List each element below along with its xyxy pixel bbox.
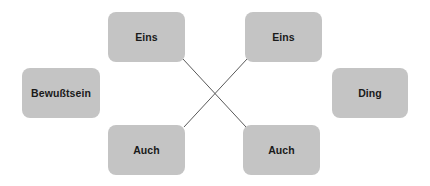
node-auch-right[interactable]: Auch: [243, 125, 320, 175]
node-ding[interactable]: Ding: [332, 68, 408, 118]
node-label: Bewußtsein: [31, 88, 91, 99]
node-eins-right[interactable]: Eins: [245, 12, 322, 62]
node-label: Eins: [272, 32, 295, 43]
node-label: Auch: [133, 145, 160, 156]
node-label: Ding: [358, 88, 382, 99]
node-auch-left[interactable]: Auch: [108, 125, 185, 175]
node-bewusstsein[interactable]: Bewußtsein: [22, 68, 100, 118]
diagram-canvas: BewußtseinEinsEinsAuchAuchDing: [0, 0, 430, 186]
node-label: Auch: [268, 145, 295, 156]
node-label: Eins: [135, 32, 158, 43]
connector-line: [183, 59, 246, 127]
node-eins-left[interactable]: Eins: [108, 12, 185, 62]
connector-line: [184, 59, 247, 127]
